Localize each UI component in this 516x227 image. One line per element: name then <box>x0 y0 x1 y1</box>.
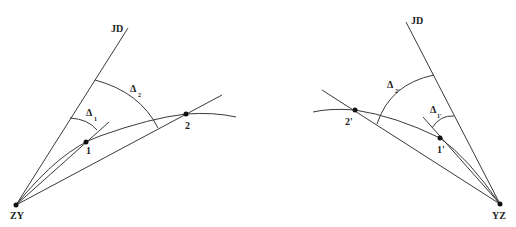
label-point-2-prime: 2' <box>345 116 353 127</box>
point-1 <box>84 140 89 145</box>
circular-curve-left <box>16 113 236 205</box>
label-delta-1-sub: 1 <box>94 116 97 122</box>
label-zy: ZY <box>10 210 25 221</box>
label-delta-2-prime-sub: 2' <box>395 88 400 94</box>
label-delta-1: Δ <box>86 107 93 118</box>
label-delta-2-prime: Δ <box>387 79 394 90</box>
point-yz <box>498 202 503 207</box>
label-yz: YZ <box>492 210 506 221</box>
chord-line-2 <box>16 95 222 205</box>
label-jd-left: JD <box>111 23 123 34</box>
point-2 <box>184 112 189 117</box>
angle-arc-delta-1-prime <box>432 116 454 128</box>
chord-line-1 <box>16 122 109 205</box>
tangent-line-zy-jd <box>16 28 128 205</box>
label-point-2: 2 <box>185 120 190 131</box>
circular-curve-right <box>313 109 500 204</box>
point-2-prime <box>353 108 358 113</box>
label-point-1-prime: 1' <box>437 144 445 155</box>
label-point-1: 1 <box>86 145 91 156</box>
point-zy <box>14 203 19 208</box>
left-diagram: ZY JD 1 2 Δ 1 Δ 2 <box>10 23 236 221</box>
angle-arc-delta-1 <box>70 118 97 130</box>
chord-line-2-prime <box>322 90 500 204</box>
label-delta-2-sub: 2 <box>138 92 141 98</box>
curve-layout-diagram: ZY JD 1 2 Δ 1 Δ 2 YZ JD 1' 2' Δ 1' Δ 2' <box>0 0 516 227</box>
label-delta-2: Δ <box>130 83 137 94</box>
label-jd-right: JD <box>411 15 423 26</box>
tangent-line-yz-jd <box>406 22 500 204</box>
label-delta-1-prime: Δ <box>430 104 437 115</box>
label-delta-1-prime-sub: 1' <box>437 113 442 119</box>
right-diagram: YZ JD 1' 2' Δ 1' Δ 2' <box>313 15 506 221</box>
point-1-prime <box>438 136 443 141</box>
